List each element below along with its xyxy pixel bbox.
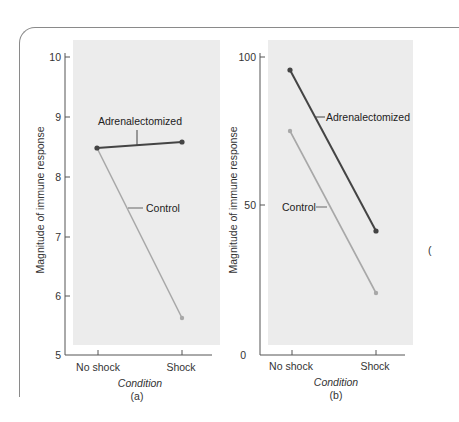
data-point xyxy=(288,129,292,133)
data-point xyxy=(94,145,99,150)
y-tick-label: 10 xyxy=(49,51,61,63)
y-ticks-b: 100 50 0 xyxy=(238,51,265,361)
chart-b: 100 50 0 No shock Shock Condition (b) Ma… xyxy=(227,40,413,401)
y-ticks-a: 10 9 8 7 6 5 xyxy=(49,51,70,361)
y-axis-title-a: Magnitude of immune response xyxy=(34,126,46,273)
cropped-glyph: ( xyxy=(428,244,432,256)
x-tick-label: Shock xyxy=(166,361,196,373)
y-tick-label: 8 xyxy=(55,171,61,183)
data-point xyxy=(373,228,378,233)
x-tick-label: No shock xyxy=(76,361,121,373)
y-tick-label: 6 xyxy=(55,290,61,302)
y-tick-label: 5 xyxy=(55,349,61,361)
series-label-adrenal-a: Adrenalectomized xyxy=(98,115,182,127)
series-label-control-a: Control xyxy=(146,202,180,214)
x-tick-label: Shock xyxy=(360,360,390,372)
data-point xyxy=(374,291,378,295)
y-tick-label: 100 xyxy=(238,51,256,63)
plot-area-b xyxy=(268,40,413,345)
series-label-control-b: Control xyxy=(282,201,316,213)
panel-caption-b: (b) xyxy=(330,389,343,401)
y-tick-label: 0 xyxy=(240,349,246,361)
data-point xyxy=(180,316,184,320)
chart-a: 10 9 8 7 6 5 No shock Shock Condition (a… xyxy=(34,40,220,402)
data-point xyxy=(287,67,292,72)
x-axis-title-a: Condition xyxy=(118,377,163,389)
panel-caption-a: (a) xyxy=(131,390,144,402)
y-tick-label: 9 xyxy=(55,111,61,123)
data-point xyxy=(179,139,184,144)
x-axis-title-b: Condition xyxy=(314,376,359,388)
x-tick-label: No shock xyxy=(269,360,314,372)
y-tick-label: 50 xyxy=(244,199,256,211)
plot-area-a xyxy=(73,40,220,345)
y-axis-title-b: Magnitude of immune response xyxy=(227,126,239,273)
series-label-adrenal-b: Adrenalectomized xyxy=(326,111,410,123)
y-tick-label: 7 xyxy=(55,231,61,243)
